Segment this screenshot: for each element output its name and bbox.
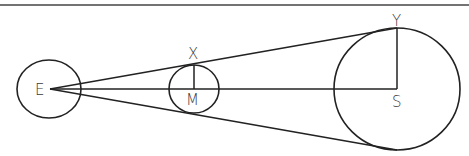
- label-m: M: [186, 91, 199, 109]
- diagram-canvas: E X M Y S: [0, 0, 469, 156]
- upper-tangent-line: [50, 28, 397, 89]
- lower-tangent-line: [50, 89, 397, 150]
- label-y: Y: [392, 12, 401, 30]
- label-x: X: [188, 45, 198, 63]
- eclipse-diagram: E X M Y S: [0, 0, 469, 156]
- label-s: S: [392, 93, 402, 111]
- label-e: E: [35, 81, 44, 99]
